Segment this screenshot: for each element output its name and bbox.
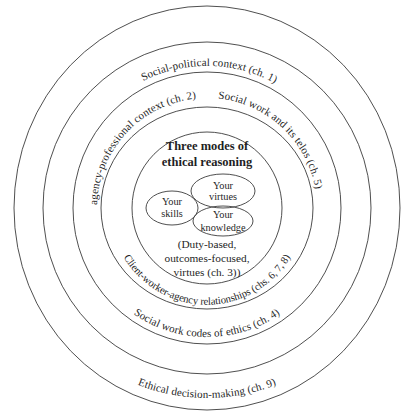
ring-label-social-political-context: Social-political context (ch. 1) [139, 56, 280, 86]
ring-label-codes-of-ethics: Social work codes of ethics (ch. 4) [132, 306, 282, 339]
ring-label-ethical-decision-making: Ethical decision-making (ch. 9) [137, 375, 278, 400]
center-title-line2: ethical reasoning [162, 155, 253, 169]
venn-label-knowledge-line1: Your [213, 209, 234, 220]
modes-note-line2: outcomes-focused, [164, 252, 249, 264]
venn-label-virtues-line2: virtues [209, 191, 237, 202]
modes-note-line1: (Duty-based, [178, 238, 237, 251]
ethics-onion-diagram: Social-political context (ch. 1) agency-… [0, 0, 409, 420]
venn-label-knowledge-line2: knowledge [200, 222, 246, 233]
modes-note-line3: virtues (ch. 3)) [174, 266, 241, 279]
inner-circle-content: Three modes of ethical reasoning Your sk… [146, 139, 255, 279]
venn-label-skills-line1: Your [162, 196, 183, 207]
center-title-line1: Three modes of [166, 139, 249, 153]
venn-label-skills-line2: skills [161, 208, 183, 219]
venn-diagram: Your skills Your virtues Your knowledge [146, 174, 255, 236]
venn-label-virtues-line1: Your [213, 180, 234, 191]
diagram-canvas: Social-political context (ch. 1) agency-… [0, 0, 409, 420]
modes-note: (Duty-based, outcomes-focused, virtues (… [164, 238, 249, 279]
